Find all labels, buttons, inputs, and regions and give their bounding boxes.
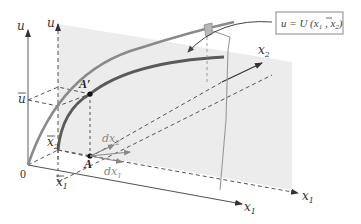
origin-label: 0 <box>20 167 26 181</box>
point-A-label: A <box>83 157 92 171</box>
section-plane <box>58 24 292 190</box>
callout-formula: u = U (x1 , x2) <box>281 17 343 31</box>
u-axis-left-label: u <box>17 19 25 33</box>
u-bar-label: u <box>18 92 26 106</box>
utility-diagram: u = U (x1 , x2) u u u x2 x1 0 x1 x1 x2 A… <box>0 0 361 224</box>
x2-bar-label: x2 <box>47 135 59 151</box>
surface-patch <box>204 23 212 37</box>
x2-axis-label: x2 <box>258 43 270 59</box>
u-axis-right-label: u <box>47 16 55 30</box>
x1-axis-dashed-label: x1 <box>302 189 314 205</box>
dx1-label: dx1 <box>104 165 122 180</box>
x1-axis-label: x1 <box>244 200 256 216</box>
point-A-prime-label: A′ <box>78 77 90 91</box>
point-A-prime <box>87 91 92 96</box>
